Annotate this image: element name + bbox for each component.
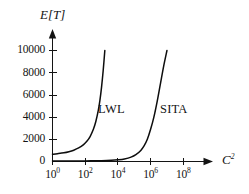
x-tick-base: 10 <box>78 168 89 180</box>
x-axis-title-base: C <box>222 152 231 167</box>
x-axis-title: C2 <box>222 153 234 166</box>
y-tick-label-2000: 2000 <box>0 133 45 145</box>
x-tick-exponent: 4 <box>122 166 126 175</box>
y-axis-title: E[T] <box>40 8 65 21</box>
y-tick-label-4000: 4000 <box>0 111 45 123</box>
x-tick-base: 10 <box>143 168 154 180</box>
series-label-lwl: LWL <box>98 103 125 116</box>
series-label-sita: SITA <box>160 103 188 116</box>
x-axis-title-exponent: 2 <box>231 152 235 161</box>
x-axis-arrowhead <box>204 158 214 165</box>
chart-container: E[T] C2 10000 8000 6000 4000 2000 0 100 … <box>0 0 249 194</box>
x-tick-exponent: 8 <box>187 166 191 175</box>
x-tick-base: 10 <box>45 168 56 180</box>
series-curve-lwl <box>53 51 105 155</box>
x-tick-base: 10 <box>111 168 122 180</box>
x-tick-exponent: 2 <box>89 166 93 175</box>
x-tick-label-1e8: 108 <box>163 169 203 181</box>
y-tick-label-0: 0 <box>0 155 45 167</box>
axes-group <box>49 29 214 165</box>
y-tick-label-8000: 8000 <box>0 67 45 79</box>
y-tick-label-10000: 10000 <box>0 44 45 56</box>
y-tick-label-6000: 6000 <box>0 89 45 101</box>
y-axis-arrowhead <box>49 29 56 39</box>
x-tick-exponent: 0 <box>56 166 60 175</box>
x-tick-base: 10 <box>176 168 187 180</box>
x-tick-exponent: 6 <box>154 166 158 175</box>
